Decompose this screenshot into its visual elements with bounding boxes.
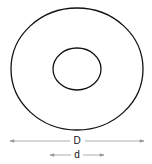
outer-circle: [11, 8, 143, 130]
inner-diameter-label: d: [72, 150, 82, 160]
outer-diameter-label: D: [71, 136, 82, 146]
inner-circle: [53, 48, 101, 90]
